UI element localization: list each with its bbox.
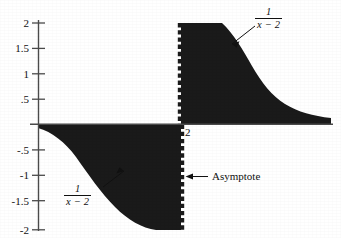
y-tick-label-0.5: .5 (2, 94, 29, 105)
shaded-region-lower-left (38, 125, 181, 231)
y-tick-label-2: 2 (2, 18, 29, 29)
curve-label-upper-denominator: x − 2 (255, 19, 282, 30)
curve-label-lower-numerator: 1 (64, 183, 91, 194)
x-tick-label-2: 2 (185, 127, 191, 138)
hyperbola-plot (0, 0, 341, 238)
shaded-region-upper-right (181, 23, 331, 125)
curve-label-lower: 1 x − 2 (64, 183, 91, 208)
y-tick-label-1.5: 1.5 (2, 43, 29, 54)
y-tick-label-neg1: -1 (2, 170, 29, 181)
curve-label-upper-numerator: 1 (255, 6, 282, 17)
chart-figure: 2 1.5 1 .5 -.5 -1 -1.5 -2 2 1 x − 2 1 x … (0, 0, 341, 238)
curve-label-lower-denominator: x − 2 (64, 196, 91, 207)
y-tick-label-neg2: -2 (2, 225, 29, 236)
curve-label-upper: 1 x − 2 (255, 6, 282, 31)
y-tick-label-neg1.5: -1.5 (2, 196, 29, 207)
y-tick-label-1: 1 (2, 69, 29, 80)
asymptote-label: Asymptote (212, 171, 260, 182)
y-tick-label-neg0.5: -.5 (2, 145, 29, 156)
